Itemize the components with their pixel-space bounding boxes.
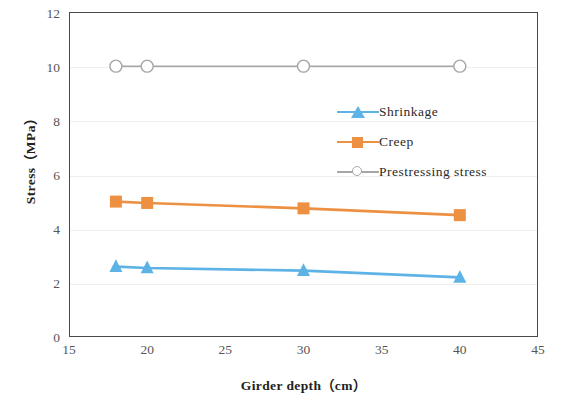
data-point-creep-40 — [454, 209, 466, 221]
legend-item-shrinkage: Shrinkage — [337, 97, 552, 127]
data-point-prestressing-stress-20 — [141, 60, 153, 72]
data-point-prestressing-stress-40 — [454, 60, 466, 72]
data-point-prestressing-stress-18 — [110, 60, 122, 72]
square-icon — [337, 133, 379, 151]
x-axis-title: Girder depth（cm） — [69, 374, 538, 394]
legend-label-shrinkage: Shrinkage — [379, 104, 438, 120]
data-point-creep-30 — [298, 202, 310, 214]
triangle-icon — [337, 103, 379, 121]
stress-vs-girder-depth-chart: Stress（MPa） 12 10 8 6 4 2 0 15 20 25 30 … — [0, 0, 563, 402]
series-line-shrinkage — [116, 267, 460, 278]
data-point-creep-18 — [110, 196, 122, 208]
series-layer — [0, 0, 563, 402]
legend: Shrinkage Creep Prestressing stress — [337, 97, 552, 187]
series-line-creep — [116, 202, 460, 216]
legend-label-creep: Creep — [379, 134, 414, 150]
legend-item-creep: Creep — [337, 127, 552, 157]
legend-item-prestressing-stress: Prestressing stress — [337, 157, 552, 187]
data-point-creep-20 — [141, 197, 153, 209]
legend-label-prestressing-stress: Prestressing stress — [379, 164, 487, 180]
data-point-prestressing-stress-30 — [298, 60, 310, 72]
circle-open-icon — [337, 163, 379, 181]
